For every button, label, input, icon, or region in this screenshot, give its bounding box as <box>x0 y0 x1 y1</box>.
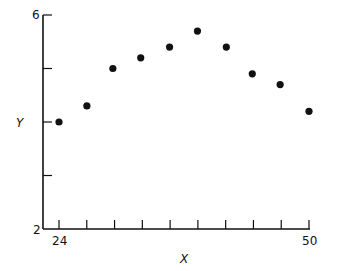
y-tick-label-bottom: 2 <box>33 224 41 236</box>
data-point <box>277 81 284 88</box>
y-tick-label-top: 6 <box>32 9 40 21</box>
x-axis-title: X <box>180 253 188 265</box>
x-tick-label-left: 24 <box>52 235 67 247</box>
data-points <box>55 27 312 125</box>
data-point <box>223 44 230 51</box>
data-point <box>83 102 90 109</box>
axes <box>43 15 310 229</box>
data-point <box>137 54 144 61</box>
y-axis-title: Y <box>16 117 23 129</box>
y-ticks <box>43 15 52 176</box>
scatter-plot <box>0 0 339 271</box>
data-point <box>166 44 173 51</box>
data-point <box>109 65 116 72</box>
x-tick-label-right: 50 <box>302 235 317 247</box>
data-point <box>194 27 201 34</box>
x-ticks <box>59 220 309 229</box>
data-point <box>249 70 256 77</box>
data-point <box>55 118 62 125</box>
data-point <box>305 108 312 115</box>
